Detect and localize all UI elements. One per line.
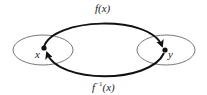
- inverse-arrow-f-inverse: [47, 53, 164, 76]
- point-x-label: x: [35, 48, 40, 60]
- inverse-label-sup: −1: [95, 80, 102, 88]
- forward-arrow-f: [44, 24, 162, 47]
- point-y-dot: [162, 47, 167, 52]
- forward-arrow-label: f(x): [95, 2, 110, 14]
- point-y-label: y: [168, 48, 173, 60]
- inverse-label-arg: (x): [103, 81, 115, 93]
- point-x-dot: [41, 45, 46, 50]
- inverse-arrow-label: f−1(x): [92, 80, 115, 93]
